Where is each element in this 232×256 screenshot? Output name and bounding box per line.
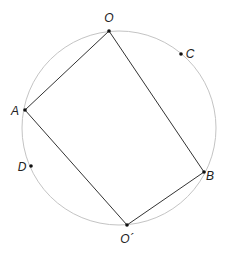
point-a-label: A (10, 104, 19, 118)
point-a-dot (23, 108, 27, 112)
point-o2-dot (125, 223, 129, 227)
point-c-label: C (186, 47, 195, 61)
point-o2-label: O´ (120, 232, 133, 246)
point-d-dot (29, 164, 33, 168)
geometry-diagram: OCADBO´ (0, 0, 232, 256)
point-d-label: D (18, 160, 27, 174)
point-o-label: O (104, 11, 113, 25)
point-b-label: B (206, 169, 214, 183)
point-o-dot (107, 29, 111, 33)
quadrilateral-OBO'A (25, 31, 204, 225)
point-c-dot (179, 52, 183, 56)
points-group: OCADBO´ (10, 11, 214, 246)
